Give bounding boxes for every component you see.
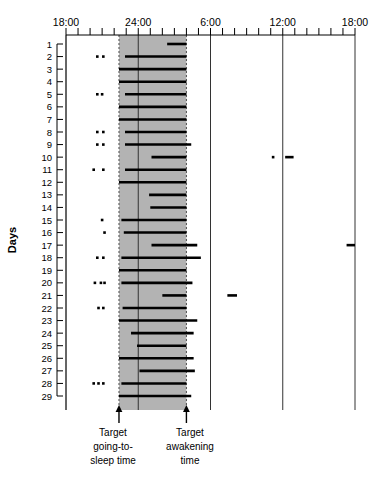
y-tick-label-day-3: 3 <box>47 64 52 75</box>
going-to-sleep-label-line1: Target <box>99 427 127 438</box>
diary-mark-day-5-0 <box>96 93 99 96</box>
y-tick-label-day-23: 23 <box>41 315 52 326</box>
x-tick-label-4: 18:00 <box>342 16 368 28</box>
y-tick-label-day-11: 11 <box>42 164 52 175</box>
diary-mark-day-18-1 <box>102 256 105 259</box>
diary-mark-day-2-1 <box>102 55 105 58</box>
y-tick-label-day-24: 24 <box>41 328 52 339</box>
y-tick-label-day-13: 13 <box>41 189 52 200</box>
y-tick-label-day-5: 5 <box>47 89 52 100</box>
y-tick-label-day-26: 26 <box>41 353 52 364</box>
y-tick-label-day-21: 21 <box>41 290 52 301</box>
actigram-chart: 18:0024:006:0012:0018:00 123456789101112… <box>0 0 390 482</box>
going-to-sleep-label-line2: going-to- <box>93 441 132 452</box>
y-tick-label-day-9: 9 <box>47 139 52 150</box>
diary-mark-day-10-0 <box>272 156 275 159</box>
diary-mark-day-20-2 <box>103 282 106 285</box>
diary-mark-day-20-1 <box>100 282 103 285</box>
y-tick-label-day-16: 16 <box>41 227 52 238</box>
diary-mark-day-8-0 <box>96 131 99 134</box>
target-band-fill <box>119 35 186 410</box>
y-tick-label-day-25: 25 <box>41 340 52 351</box>
x-tick-label-2: 6:00 <box>200 16 221 28</box>
y-axis-title: Days <box>6 227 18 253</box>
y-tick-label-day-18: 18 <box>41 252 52 263</box>
y-tick-label-day-28: 28 <box>41 378 52 389</box>
diary-mark-day-28-0 <box>92 382 95 385</box>
diary-mark-day-11-0 <box>92 168 95 171</box>
y-tick-label-day-7: 7 <box>47 114 52 125</box>
diary-mark-day-20-0 <box>94 282 97 285</box>
y-tick-label-day-1: 1 <box>47 39 52 50</box>
diary-mark-day-9-1 <box>102 143 105 146</box>
diary-mark-day-16-0 <box>103 231 106 234</box>
awakening-label-line2: awakening <box>166 441 214 452</box>
going-to-sleep-label-line3: sleep time <box>90 455 136 466</box>
sleep-actigram-svg: 18:0024:006:0012:0018:00 123456789101112… <box>0 0 390 482</box>
y-tick-label-day-22: 22 <box>41 303 52 314</box>
diary-mark-day-22-0 <box>97 307 100 310</box>
x-tick-label-0: 18:00 <box>53 16 79 28</box>
y-tick-label-day-8: 8 <box>47 127 52 138</box>
diary-mark-day-28-1 <box>97 382 100 385</box>
chart-background <box>0 0 390 482</box>
target-sleep-band-group <box>119 35 186 410</box>
y-tick-label-day-29: 29 <box>41 391 52 402</box>
diary-mark-day-11-1 <box>102 168 105 171</box>
y-tick-label-day-20: 20 <box>41 277 52 288</box>
y-tick-label-day-10: 10 <box>41 152 52 163</box>
diary-mark-day-15-0 <box>101 219 104 222</box>
y-tick-label-day-12: 12 <box>41 177 52 188</box>
y-tick-label-day-27: 27 <box>41 365 52 376</box>
x-tick-label-1: 24:00 <box>125 16 151 28</box>
diary-mark-day-8-1 <box>102 131 105 134</box>
diary-mark-day-5-1 <box>101 93 104 96</box>
y-tick-label-day-4: 4 <box>47 76 52 87</box>
diary-mark-day-22-1 <box>102 307 105 310</box>
y-tick-label-day-15: 15 <box>41 215 52 226</box>
x-tick-label-3: 12:00 <box>270 16 296 28</box>
diary-mark-day-28-2 <box>102 382 105 385</box>
diary-mark-day-18-0 <box>96 256 99 259</box>
y-tick-label-day-17: 17 <box>41 240 52 251</box>
y-tick-label-day-14: 14 <box>41 202 52 213</box>
y-tick-label-day-2: 2 <box>47 51 52 62</box>
diary-mark-day-9-0 <box>96 143 99 146</box>
diary-mark-day-2-0 <box>96 55 99 58</box>
awakening-label-line1: Target <box>176 427 204 438</box>
y-tick-label-day-19: 19 <box>41 265 52 276</box>
y-tick-label-day-6: 6 <box>47 101 52 112</box>
awakening-label-line3: time <box>181 455 200 466</box>
